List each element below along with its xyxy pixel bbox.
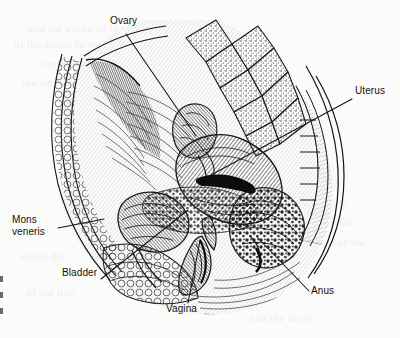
leader-line-mons-veneris xyxy=(58,219,104,228)
label-uterus: Uterus xyxy=(355,85,385,97)
leader-line-ovary xyxy=(126,34,196,136)
leader-line-anus xyxy=(257,237,309,291)
leader-lines-layer xyxy=(0,0,400,338)
label-ovary: Ovary xyxy=(110,15,137,27)
leader-line-bladder xyxy=(101,210,188,279)
leader-line-uterus xyxy=(211,99,352,175)
anatomical-figure: and the entire of the of the tissue in t… xyxy=(0,0,400,338)
label-vagina: Vagina xyxy=(166,303,197,315)
label-mons-veneris-line2: veneris xyxy=(12,226,60,238)
label-mons-veneris-line1: Mons xyxy=(12,214,60,226)
label-bladder: Bladder xyxy=(62,267,97,279)
label-mons-veneris: Mons veneris xyxy=(12,214,60,237)
leader-line-vagina xyxy=(188,241,200,303)
label-anus: Anus xyxy=(311,285,334,297)
